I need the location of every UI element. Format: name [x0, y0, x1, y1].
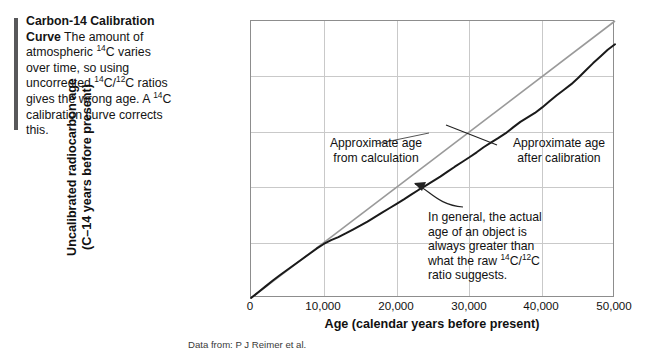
annotation-after-calibration: Approximate age after calibration: [499, 136, 619, 165]
figure-caption: Carbon-14 Calibration Curve The amount o…: [26, 14, 174, 139]
caption-accent-rule: [14, 18, 18, 130]
x-tick-label-30000: 30,000: [434, 299, 504, 312]
annotation-after-calibration-line2: after calibration: [499, 151, 619, 166]
caption-sup-14b: 14: [94, 74, 103, 84]
caption-sup-12: 12: [116, 74, 125, 84]
annotation-from-calculation-line2: from calculation: [317, 151, 435, 166]
figure-root: Carbon-14 Calibration Curve The amount o…: [0, 0, 651, 363]
source-note: Data from: P J Reimer et al.: [188, 339, 306, 350]
x-tick-label-50000: 50,000: [579, 299, 649, 312]
x-tick-label-0: 0: [215, 299, 285, 312]
annotation-from-calculation-line1: Approximate age: [317, 136, 435, 151]
annotation-general-line4a: what the raw: [428, 254, 500, 268]
annotation-general-sup-14: 14: [500, 252, 509, 262]
annotation-from-calculation: Approximate age from calculation: [317, 136, 435, 165]
annotation-after-calibration-line1: Approximate age: [499, 136, 619, 151]
annotation-general-line2: age of an object is: [428, 225, 556, 240]
y-axis-title-line1: Uncalibrated radiocarbon age: [65, 17, 80, 317]
x-axis-title: Age (calendar years before present): [250, 317, 614, 331]
caption-sup-14a: 14: [96, 43, 105, 53]
y-axis-title: Uncalibrated radiocarbon age (C–14 years…: [65, 17, 95, 317]
annotation-general-sup-12: 12: [522, 252, 531, 262]
y-axis-title-line2: (C–14 years before present): [80, 17, 95, 317]
x-tick-label-10000: 10,000: [288, 299, 358, 312]
annotation-general-note: In general, the actual age of an object …: [428, 210, 556, 283]
annotation-general-line5: ratio suggests.: [428, 268, 556, 283]
annotation-general-line3: always greater than: [428, 239, 556, 254]
leader-line-after-calibration: [446, 125, 497, 145]
annotation-general-line1: In general, the actual: [428, 210, 556, 225]
caption-body-3: C/: [104, 76, 116, 90]
annotation-general-line4: what the raw 14C/12C: [428, 254, 556, 269]
x-tick-label-40000: 40,000: [506, 299, 576, 312]
annotation-general-line4b: C/: [510, 254, 522, 268]
x-tick-label-20000: 20,000: [361, 299, 431, 312]
annotation-general-line4c: C: [531, 254, 540, 268]
